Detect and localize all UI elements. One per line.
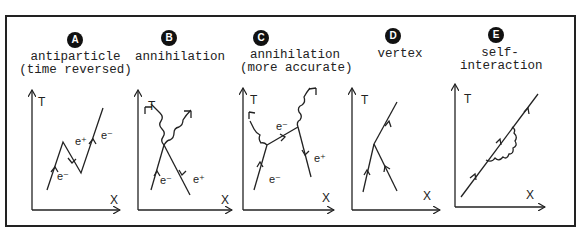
panel-c-space-label: X — [322, 191, 330, 205]
panel-d-space-label: X — [423, 189, 431, 203]
panel-e-time-label: T — [464, 92, 472, 106]
panel-a-label-electron-1: e⁻ — [57, 170, 69, 182]
panel-a-space-label: X — [110, 193, 118, 207]
panel-c-label-electron-bottom: e⁻ — [269, 173, 281, 185]
feynman-diagrams: T X T X T X T X T X e⁻ e⁺ e⁻ e⁻ e⁺ e⁻ e⁻… — [0, 0, 581, 231]
panel-b-time-label: T — [148, 99, 156, 113]
panel-c-time-label: T — [250, 93, 258, 107]
panel-a-time-label: T — [38, 95, 46, 109]
panel-c-label-electron-top: e⁻ — [276, 120, 288, 132]
panel-b-label-electron: e⁻ — [160, 174, 172, 186]
panel-d-time-label: T — [361, 93, 369, 107]
panel-e-space-label: X — [526, 188, 534, 202]
panel-b-space-label: X — [221, 193, 229, 207]
panel-a-label-positron: e⁺ — [75, 135, 87, 147]
panel-c-label-positron: e⁺ — [314, 152, 326, 164]
panel-b-label-positron: e⁺ — [193, 173, 205, 185]
panel-a-label-electron-2: e⁻ — [101, 129, 113, 141]
